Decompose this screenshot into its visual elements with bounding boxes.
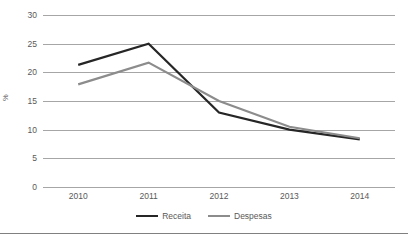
legend-item-receita[interactable]: Receita <box>136 212 191 221</box>
y-tick-label: 0 <box>32 183 37 192</box>
legend-line-icon <box>208 215 230 217</box>
bottom-divider <box>0 233 408 234</box>
plot-area: 051015202530 <box>43 15 395 187</box>
legend-line-icon <box>136 215 158 217</box>
legend-label: Despesas <box>234 212 272 221</box>
y-tick-label: 10 <box>28 125 37 134</box>
legend-item-despesas[interactable]: Despesas <box>208 212 272 221</box>
x-tick-label: 2013 <box>280 192 299 201</box>
y-tick-label: 20 <box>28 68 37 77</box>
y-axis-label: % <box>2 94 10 101</box>
y-tick-label: 5 <box>32 154 37 163</box>
gridline <box>43 187 395 188</box>
x-tick-label: 2011 <box>139 192 157 201</box>
x-tick-label: 2012 <box>210 192 229 201</box>
x-tick-label: 2010 <box>69 192 88 201</box>
chart-figure: % 051015202530 20102011201220132014 Rece… <box>0 0 408 242</box>
x-axis-tick-labels: 20102011201220132014 <box>43 192 395 206</box>
y-tick-label: 30 <box>28 11 37 20</box>
x-tick-label: 2014 <box>350 192 369 201</box>
series-layer <box>43 15 395 187</box>
series-line-despesas <box>78 63 360 139</box>
y-tick-label: 15 <box>28 97 37 106</box>
series-line-receita <box>78 44 360 140</box>
chart-legend: ReceitaDespesas <box>0 212 408 221</box>
legend-label: Receita <box>162 212 191 221</box>
y-tick-label: 25 <box>28 39 37 48</box>
